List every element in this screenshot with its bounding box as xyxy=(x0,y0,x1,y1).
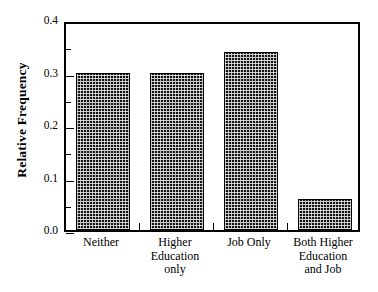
plot-area xyxy=(64,22,360,232)
y-tick-major xyxy=(66,23,74,24)
x-category-label: Job Only xyxy=(212,236,286,250)
x-category-label-line: Both Higher xyxy=(286,236,360,250)
y-tick-minor xyxy=(66,102,71,103)
x-category-label: HigherEducationonly xyxy=(138,236,212,277)
bar xyxy=(298,199,353,231)
x-category-label-line: Education xyxy=(138,250,212,264)
y-tick-minor xyxy=(66,49,71,50)
x-tick xyxy=(213,223,214,230)
x-category-label: Neither xyxy=(64,236,138,250)
x-category-label-line: Higher xyxy=(138,236,212,250)
x-category-label-line: Job Only xyxy=(212,236,286,250)
x-tick xyxy=(139,223,140,230)
y-tick-major xyxy=(66,233,74,234)
bar xyxy=(224,52,279,231)
y-tick-minor xyxy=(66,207,71,208)
bar xyxy=(76,73,131,231)
x-category-label-line: only xyxy=(138,263,212,277)
x-category-label: Both HigherEducationand Job xyxy=(286,236,360,277)
bar xyxy=(150,73,205,231)
bar-chart-figure: Relative Frequency 0.00.10.20.30.4 Neith… xyxy=(0,0,378,292)
y-tick-major xyxy=(66,76,74,77)
y-tick-minor xyxy=(66,154,71,155)
y-tick-label: 0.2 xyxy=(0,119,58,131)
y-tick-label: 0.1 xyxy=(0,172,58,184)
x-tick xyxy=(287,223,288,230)
x-category-label-line: Education xyxy=(286,250,360,264)
x-category-label-line: Neither xyxy=(64,236,138,250)
x-category-label-line: and Job xyxy=(286,263,360,277)
y-tick-major xyxy=(66,128,74,129)
y-tick-label: 0.0 xyxy=(0,224,58,236)
y-tick-major xyxy=(66,181,74,182)
y-tick-label: 0.3 xyxy=(0,67,58,79)
y-tick-label: 0.4 xyxy=(0,14,58,26)
